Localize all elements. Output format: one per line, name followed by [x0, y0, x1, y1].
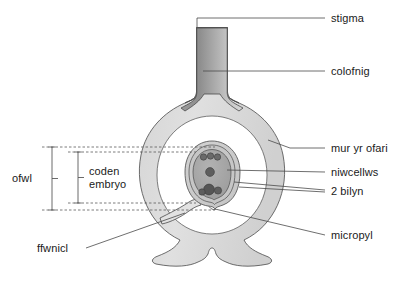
antipodal-cells	[200, 153, 220, 160]
label-micropyl: micropyl	[331, 229, 373, 242]
leader-stigma	[197, 18, 325, 27]
label-coden-embryo-line1: coden	[89, 165, 119, 178]
label-coden-embryo-line2: embryo	[89, 178, 126, 191]
label-colofnig: colofnig	[331, 65, 370, 78]
label-mur-yr-ofari: mur yr ofari	[331, 142, 388, 155]
label-niwcellws: niwcellws	[331, 166, 378, 179]
label-2-bilyn: 2 bilyn	[331, 185, 364, 198]
coden-embryo-bracket	[75, 152, 85, 203]
label-stigma: stigma	[331, 12, 364, 25]
ofwl-bracket	[49, 147, 59, 210]
central-nucleus	[206, 168, 215, 177]
label-ffwnicl: ffwnicl	[37, 242, 68, 255]
label-ofwl: ofwl	[12, 172, 32, 185]
